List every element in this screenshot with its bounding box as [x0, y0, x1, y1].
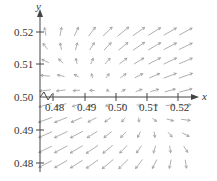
vector-arrow	[86, 146, 98, 154]
vector-arrow	[103, 146, 112, 154]
vector-arrow	[149, 58, 161, 64]
vector-arrow	[164, 73, 176, 78]
vector-arrow	[71, 132, 83, 138]
vector-arrow	[118, 27, 129, 36]
y-tick-label: 0.50	[14, 91, 34, 103]
vector-arrow	[55, 132, 68, 138]
vector-field-plot: y x 0.52 0.51 0.50 0.49 0.48 0.48 0.49 0…	[0, 0, 217, 181]
vector-arrow	[119, 160, 128, 169]
x-axis-arrowhead-icon	[191, 94, 199, 100]
y-axis-label: y	[35, 0, 41, 12]
y-tick-label: 0.52	[14, 26, 33, 38]
x-ticks: 0.48 0.49 0.50 0.51 0.52	[45, 93, 189, 113]
vector-arrow	[119, 43, 128, 50]
vector-arrow	[39, 161, 51, 168]
axis-break-icon	[40, 92, 52, 100]
vector-arrow	[149, 28, 161, 35]
vector-arrow	[71, 160, 83, 168]
vector-arrow	[87, 132, 97, 138]
vector-arrow	[136, 160, 143, 169]
x-tick-label: 0.49	[77, 101, 97, 113]
vector-arrow	[39, 118, 52, 123]
vector-arrow	[102, 160, 113, 169]
vector-arrow	[179, 73, 192, 78]
vector-arrow	[55, 161, 67, 168]
vector-arrow	[89, 27, 96, 36]
vector-arrow	[133, 28, 144, 36]
y-tick-label: 0.49	[14, 124, 34, 136]
vector-arrow	[164, 43, 176, 50]
vector-arrow	[70, 146, 82, 153]
vector-field-arrows	[39, 27, 193, 169]
vector-arrow	[86, 160, 97, 168]
vector-arrow	[164, 28, 176, 35]
vector-arrow	[39, 146, 52, 152]
vector-arrow	[149, 43, 161, 50]
vector-arrow	[120, 58, 127, 64]
vector-arrow	[180, 43, 193, 49]
x-axis-label: x	[201, 90, 207, 102]
x-tick-label: 0.51	[139, 101, 158, 113]
vector-arrow	[120, 146, 127, 153]
vector-arrow	[103, 27, 112, 36]
y-tick-label: 0.48	[14, 157, 34, 169]
vector-arrow	[104, 132, 111, 138]
x-tick-label: 0.48	[45, 101, 65, 113]
vector-arrow	[104, 43, 111, 50]
vector-arrow	[133, 42, 144, 50]
vector-arrow	[180, 28, 192, 35]
vector-arrow	[134, 58, 144, 64]
x-tick-label: 0.50	[108, 101, 128, 113]
vector-arrow	[164, 58, 177, 64]
x-tick-label: 0.52	[170, 101, 189, 113]
vector-arrow	[39, 132, 52, 138]
y-tick-label: 0.51	[14, 58, 33, 70]
vector-arrow	[55, 118, 67, 123]
vector-arrow	[179, 58, 192, 64]
vector-arrow	[55, 146, 67, 153]
